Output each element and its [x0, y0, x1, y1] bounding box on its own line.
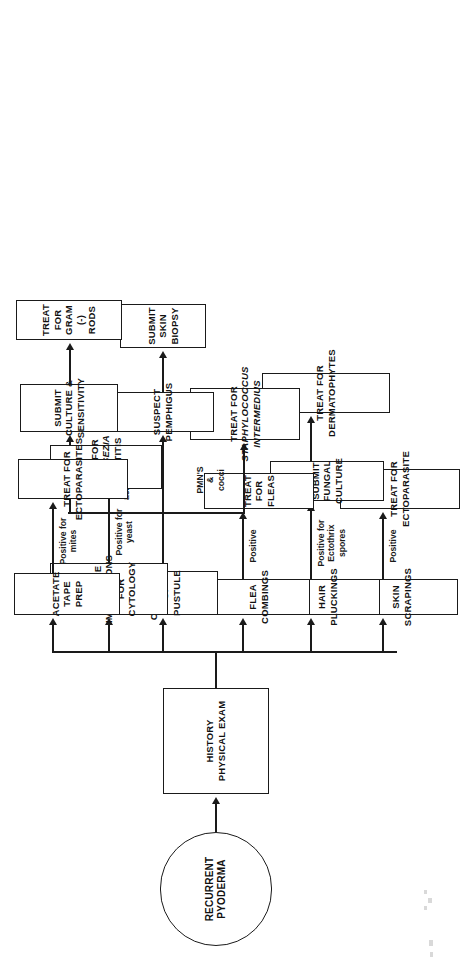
treat-ectoparasites-line-1: TREAT FOR: [61, 438, 73, 520]
edge-spine-to-hair-pluckings: [310, 623, 312, 653]
arrowhead-submit-skin-biopsy: [159, 351, 167, 358]
edge-cytology-to-acantholytic: [162, 440, 164, 514]
arrowhead-treat-ectoparasites: [49, 502, 57, 509]
edge-pemphigus-to-biopsy: [162, 356, 164, 392]
acetate-tape-line-2: TAPE PREP: [61, 572, 84, 617]
node-flea-combings: FLEA COMBINGS: [208, 579, 310, 615]
node-treat-ectoparasites: TREAT FOR ECTOPARASITES: [18, 459, 128, 499]
arrowhead-start-to-history: [212, 797, 220, 804]
arrowhead-skin-scrapings-treat: [379, 512, 387, 519]
start-line-2: PYODERMA: [216, 857, 228, 922]
arrowhead-acetate-tape: [49, 618, 57, 625]
treat-dermatophytes-line-2: DERMATOPHYTES: [326, 349, 338, 437]
scan-artifact: [430, 952, 433, 957]
scan-artifact: [429, 940, 433, 946]
edge-spine-to-skin-surface: [108, 623, 110, 653]
treat-dermatophytes-line-1: TREAT FOR: [314, 349, 326, 437]
edge-spine-to-skin-scrapings: [382, 623, 384, 653]
treat-gram-rods-line-1: TREAT FOR: [40, 304, 63, 336]
arrowhead-treat-gram-rods: [66, 343, 74, 350]
treat-staph-line-3: INTERMEDIUS: [251, 367, 263, 462]
arrowhead-hair-pluckings: [307, 618, 315, 625]
scan-artifact: [424, 890, 427, 894]
cytology-distributor-spine: [68, 512, 244, 514]
edge-culture-to-gram-rods: [69, 348, 71, 384]
history-line-2: PHYSICAL EXAM: [216, 701, 228, 782]
scan-artifact: [424, 906, 427, 910]
trunk-spine: [52, 651, 397, 653]
treat-fleas-line-1: TREAT FOR FLEAS: [242, 475, 277, 507]
edge-spine-to-flea-combings: [242, 623, 244, 653]
submit-fungal-line-2: CULTURE: [333, 458, 345, 504]
node-submit-skin-biopsy: SUBMIT SKIN BIOPSY: [120, 304, 206, 348]
flea-combings-line-1: FLEA COMBINGS: [247, 570, 270, 624]
treat-ectoparasite-line-2: ECTOPARASITE: [400, 451, 412, 527]
treat-staph-line-2: STAPHYLOCOCCUS: [239, 367, 251, 462]
history-line-1: HISTORY: [204, 701, 216, 782]
node-history-physical-exam: HISTORY PHYSICAL EXAM: [163, 688, 269, 794]
cytology-pustule-line-2: PUSTULE: [171, 566, 183, 621]
submit-biopsy-line-3: BIOPSY: [169, 307, 181, 345]
hair-pluckings-line-1: HAIR PLUCKINGS: [316, 568, 339, 626]
treat-gram-rods-line-2: GRAM (-) RODS: [63, 304, 98, 336]
label-flea-combings-positive: Positive: [248, 518, 258, 574]
start-line-1: RECURRENT: [204, 857, 216, 922]
arrowhead-skin-scrapings: [379, 618, 387, 625]
submit-culture-line-1: SUBMIT: [52, 378, 64, 438]
node-treat-gram-negative-rods: TREAT FOR GRAM (-) RODS: [16, 300, 122, 340]
node-submit-culture-sensitivity: SUBMIT CULTURE & SENSITIVITY: [20, 384, 118, 432]
label-positive-for-yeast: Positive for yeast: [114, 498, 135, 566]
submit-culture-line-2: CULTURE &: [63, 378, 75, 438]
label-hair-pluckings-positive: Positive for Ectothrix spores: [316, 512, 347, 574]
label-pmns-cocci: PMN'S & cocci: [195, 455, 226, 505]
submit-culture-line-3: SENSITIVITY: [75, 378, 87, 438]
arrowhead-flea-combings: [239, 618, 247, 625]
edge-history-to-spine: [215, 652, 217, 688]
node-acetate-tape-prep: ACETATE TAPE PREP: [14, 573, 120, 615]
edge-spine-to-cytology-pustule: [162, 623, 164, 653]
suspect-pemphigus-line-2: PEMPHIGUS: [163, 383, 175, 442]
treat-staph-line-1: TREAT FOR: [228, 367, 240, 462]
edge-spine-to-acetate-tape: [52, 623, 54, 653]
submit-biopsy-line-1: SUBMIT: [146, 307, 158, 345]
skin-scrapings-line-1: SKIN SCRAPINGS: [390, 568, 413, 626]
edge-skin-surface-to-malassezia: [108, 497, 110, 563]
edge-flea-combings-to-treat: [242, 517, 244, 579]
node-recurrent-pyoderma: RECURRENT PYODERMA: [160, 832, 272, 946]
submit-biopsy-line-2: SKIN: [157, 307, 169, 345]
treat-ectoparasites-line-2: ECTOPARASITES: [73, 438, 85, 520]
edge-start-to-history: [215, 802, 217, 832]
edge-skin-scrapings-to-treat: [382, 517, 384, 579]
edge-hair-pluckings-to-fungal: [310, 509, 312, 579]
edge-acetate-to-ectoparasites: [52, 507, 54, 573]
scan-artifact: [428, 898, 432, 903]
edge-fungal-to-dermatophytes: [310, 421, 312, 461]
treat-ectoparasite-line-1: TREAT FOR: [388, 451, 400, 527]
acetate-tape-line-1: ACETATE: [50, 572, 62, 617]
node-suspect-pemphigus: SUSPECT PEMPHIGUS: [112, 392, 214, 432]
